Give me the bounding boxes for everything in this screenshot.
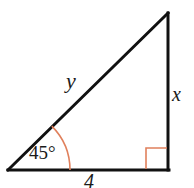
hypotenuse-label: y [66,70,76,92]
triangle-figure: y x 45° 4 [0,0,194,188]
right-angle-marker [146,148,167,169]
base-length-label: 4 [84,171,94,188]
angle-measure-label: 45° [29,143,56,162]
vertical-leg-label: x [172,84,181,104]
